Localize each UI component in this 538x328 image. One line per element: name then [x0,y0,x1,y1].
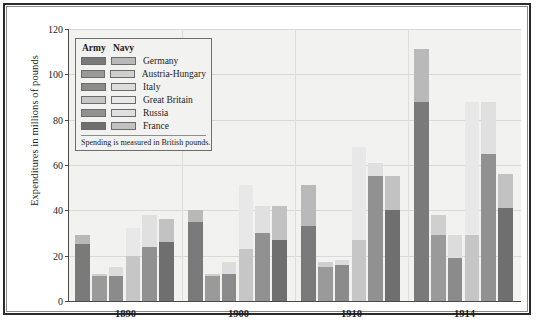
bar-segment-navy [75,235,90,244]
bar-1914-france [498,174,513,301]
bar-1910-germany [301,185,316,301]
legend-navy-swatch [111,96,136,104]
bar-segment-army [448,258,463,301]
bar-1900-france [272,206,287,301]
bar-1910-great-britain [352,147,367,301]
legend-header: Army Navy [81,43,206,53]
legend-item-great-britain: Great Britain [81,93,206,106]
y-tick-label: 0 [58,296,63,307]
legend-item-germany: Germany [81,54,206,67]
legend-item-label: Germany [143,56,178,66]
bar-segment-navy [239,185,254,248]
bar-1914-great-britain [465,102,480,301]
bar-1914-austria-hungary [431,215,446,301]
bar-segment-army [301,226,316,301]
legend-army-swatch [81,70,105,78]
bar-segment-army [385,210,400,301]
x-axis-label-1890: 1890 [69,308,182,319]
legend-item-label: France [143,121,169,131]
bar-segment-army [368,176,383,301]
bar-segment-navy [301,185,316,226]
bar-segment-navy [142,215,157,247]
bar-segment-navy [272,206,287,240]
y-tick-mark [65,301,69,302]
y-tick-label: 80 [53,114,63,125]
bar-segment-army [205,276,220,301]
bar-segment-navy [498,174,513,208]
bar-1890-russia [142,215,157,301]
x-axis-label-1910: 1910 [295,308,408,319]
y-tick-label: 20 [53,250,63,261]
bar-segment-army [92,276,107,301]
legend-navy-swatch [111,122,136,130]
legend-item-label: Great Britain [143,95,193,105]
legend-item-label: Italy [143,82,160,92]
legend-note: Spending is measured in British pounds. [81,135,206,147]
bar-segment-army [431,235,446,301]
bar-1900-germany [188,210,203,301]
legend-army-swatch [81,109,106,117]
bar-segment-army [222,274,237,301]
legend-army-swatch [81,57,106,65]
bar-1900-italy [222,262,237,301]
legend-item-label: Austria-Hungary [142,69,206,79]
bar-1910-russia [368,163,383,301]
legend-navy-swatch [111,109,136,117]
bar-group-1914: 1914 [408,29,521,301]
bar-segment-navy [188,210,203,221]
bar-segment-army [142,247,157,301]
bar-1890-italy [109,267,124,301]
legend-navy-header: Navy [113,43,134,53]
bar-1890-austria-hungary [92,274,107,301]
bar-segment-army [272,240,287,301]
bar-segment-army [465,235,480,301]
bar-segment-navy [222,262,237,273]
x-axis-label-1900: 1900 [182,308,295,319]
bar-segment-navy [126,228,141,255]
legend-item-russia: Russia [81,106,206,119]
bar-segment-navy [352,147,367,240]
bar-segment-army [414,102,429,301]
legend-navy-swatch [111,83,136,91]
legend-navy-swatch [111,57,136,65]
bar-1910-france [385,176,400,301]
bar-segment-navy [368,163,383,177]
legend-navy-swatch [110,70,134,78]
bar-1900-great-britain [239,185,254,301]
bar-1914-russia [481,102,496,301]
bar-segment-navy [481,102,496,154]
y-tick-label: 40 [53,205,63,216]
legend-army-swatch [81,96,106,104]
bar-1890-great-britain [126,228,141,301]
bar-segment-army [255,233,270,301]
bar-segment-army [159,242,174,301]
bar-1890-germany [75,235,90,301]
bar-segment-army [498,208,513,301]
y-tick-label: 120 [48,24,63,35]
bar-1914-germany [414,49,429,301]
chart-legend: Army Navy GermanyAustria-HungaryItalyGre… [75,38,212,151]
y-tick-label: 100 [48,69,63,80]
bar-segment-army [239,249,254,301]
bar-1910-italy [335,260,350,301]
bar-segment-navy [109,267,124,276]
bar-group-1910: 1910 [295,29,408,301]
bar-segment-army [481,154,496,301]
group-separator [295,29,296,301]
legend-army-header: Army [82,43,113,53]
bar-segment-army [75,244,90,301]
bar-segment-army [126,256,141,301]
bar-1910-austria-hungary [318,262,333,301]
x-axis-label-1914: 1914 [408,308,521,319]
bar-segment-navy [255,206,270,233]
legend-item-france: France [81,119,206,132]
bar-segment-navy [465,102,480,236]
y-axis-title: Expenditures in millions of pounds [29,16,40,246]
bar-segment-army [335,265,350,301]
bar-segment-navy [448,235,463,258]
legend-army-swatch [81,122,106,130]
y-tick-label: 60 [53,160,63,171]
bar-segment-navy [431,215,446,235]
bar-segment-navy [159,219,174,242]
bar-segment-army [352,240,367,301]
